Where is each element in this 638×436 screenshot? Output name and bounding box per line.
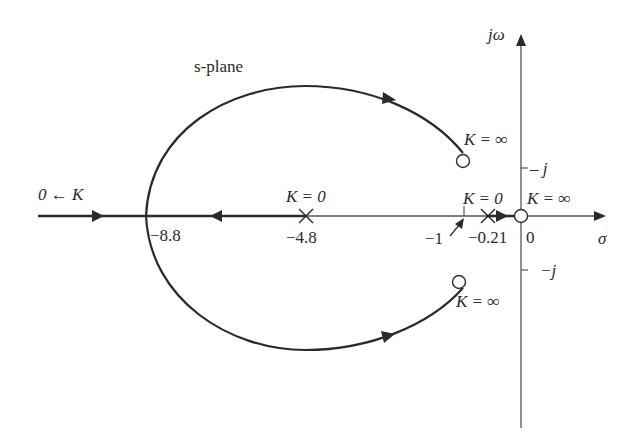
real-axis-label: σ [598, 229, 607, 248]
arrow-right-icon [496, 210, 508, 222]
minus-one-pointer-arrow-icon [455, 218, 464, 229]
pole-b-k-label: K = 0 [462, 189, 503, 208]
zero-origin-k-label: K = ∞ [526, 189, 570, 208]
zero-upper-icon [457, 155, 470, 168]
breakin-label: −8.8 [150, 226, 181, 245]
zero-lower-icon [453, 276, 466, 289]
left-branch-label: 0 ← K [38, 185, 85, 204]
plane-title: s-plane [194, 57, 243, 76]
arrow-lower-icon [381, 331, 395, 343]
neg-j-label: −j [540, 261, 556, 280]
zero-lower-k-label: K = ∞ [455, 292, 499, 311]
pole-a-label: −4.8 [286, 228, 317, 247]
arrow-left-icon [210, 210, 222, 222]
arrow-right-icon [92, 210, 104, 222]
imag-axis-label: jω [486, 25, 505, 44]
root-locus-diagram: s-plane jω σ 0 – j −j 0 ← K −8.8 −4.8 K … [0, 0, 638, 436]
minus-one-label: −1 [425, 229, 443, 248]
zero-upper-k-label: K = ∞ [463, 130, 507, 149]
pole-b-label: −0.21 [468, 228, 507, 247]
pos-j-label: – j [529, 159, 548, 178]
pole-a-k-label: K = 0 [285, 187, 326, 206]
zero-origin-icon [515, 210, 528, 223]
origin-label: 0 [526, 228, 535, 247]
